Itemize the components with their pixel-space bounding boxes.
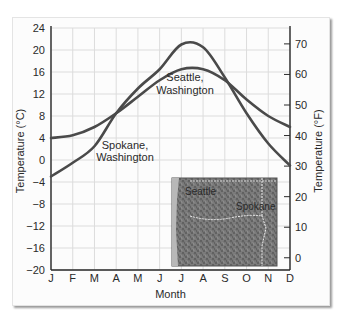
x-tick-label: D <box>286 272 294 284</box>
y-tick-label: 24 <box>33 22 45 34</box>
spokane-annotation: Spokane, <box>102 139 148 151</box>
temperature-chart: Seattle Spokane 24201612840−4−8−12−16−20… <box>0 0 342 316</box>
x-tick-label: J <box>157 272 163 284</box>
y-tick-label: 8 <box>39 110 45 122</box>
y-tick-label: 0 <box>39 154 45 166</box>
y-right-tick-label: 20 <box>295 191 307 203</box>
seattle-annotation: Washington <box>156 84 214 96</box>
y-tick-label: −12 <box>26 220 45 232</box>
seattle-annotation: Seattle, <box>166 71 203 83</box>
x-tick-label: O <box>242 272 251 284</box>
x-tick-label: A <box>113 272 121 284</box>
y-tick-label: 20 <box>33 44 45 56</box>
y-tick-label: 4 <box>39 132 45 144</box>
y-right-tick-label: 40 <box>295 130 307 142</box>
spokane-annotation: Washington <box>96 151 154 163</box>
y-right-tick-label: 50 <box>295 99 307 111</box>
inset-map: Seattle Spokane <box>172 178 277 266</box>
y-right-tick-label: 60 <box>295 68 307 80</box>
y-tick-label: −20 <box>26 264 45 276</box>
spokane-line <box>51 42 290 176</box>
x-tick-label: F <box>69 272 76 284</box>
inset-label-spokane: Spokane <box>236 201 276 212</box>
x-tick-label: J <box>179 272 185 284</box>
y-right-axis-label: Temperature (°F) <box>312 109 324 192</box>
x-tick-label: N <box>264 272 272 284</box>
series-lines <box>51 42 290 176</box>
x-tick-label: M <box>133 272 142 284</box>
y-tick-label: −4 <box>32 176 45 188</box>
y-tick-label: 12 <box>33 88 45 100</box>
y-axis-label: Temperature (°C) <box>14 109 26 193</box>
x-tick-label: J <box>48 272 54 284</box>
y-tick-label: 16 <box>33 66 45 78</box>
y-right-tick-label: 10 <box>295 221 307 233</box>
y-right-tick-label: 30 <box>295 160 307 172</box>
y-right-tick-label: 0 <box>295 252 301 264</box>
x-tick-label: M <box>90 272 99 284</box>
y-tick-label: −16 <box>26 242 45 254</box>
y-right-tick-label: 70 <box>295 38 307 50</box>
x-tick-label: A <box>199 272 207 284</box>
x-axis-label: Month <box>155 288 186 300</box>
x-tick-label: S <box>221 272 228 284</box>
inset-label-seattle: Seattle <box>185 186 217 197</box>
y-tick-label: −8 <box>32 198 45 210</box>
